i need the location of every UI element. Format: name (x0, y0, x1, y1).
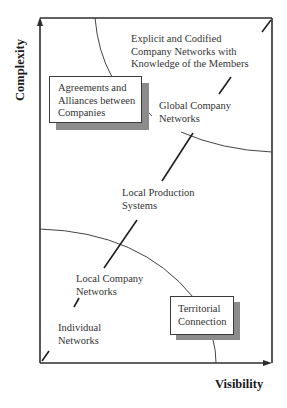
trend-segment-6 (262, 20, 271, 32)
trend-segment-3 (104, 220, 137, 268)
label-local-company-line-2: Networks (76, 286, 143, 299)
label-explicit-line-2: Company Networks with (131, 46, 249, 59)
trend-segment-2 (74, 298, 79, 307)
trend-segment-5 (219, 77, 231, 94)
agreements-box: Agreements and Alliances between Compani… (49, 76, 142, 123)
arc-upper-right (181, 132, 272, 152)
territorial-box: Territorial Connection (170, 296, 234, 335)
arc-upper-left (95, 18, 112, 77)
label-local-company-line-1: Local Company (76, 273, 143, 286)
agreements-line-1: Agreements and (58, 82, 141, 95)
label-global-line-2: Networks (159, 113, 231, 126)
trend-segment-4 (162, 133, 193, 181)
territorial-line-2: Connection (178, 316, 233, 329)
label-local-production: Local Production Systems (122, 187, 195, 212)
label-local-production-line-2: Systems (122, 200, 195, 213)
territorial-line-1: Territorial (178, 303, 233, 316)
y-axis-label: Complexity (13, 39, 28, 101)
label-individual-line-1: Individual (58, 322, 101, 335)
label-explicit: Explicit and Codified Company Networks w… (131, 33, 249, 71)
label-local-company: Local Company Networks (76, 273, 143, 298)
arc-lower-right (213, 340, 216, 363)
complexity-visibility-diagram: Complexity Visibility Agreements and All… (0, 0, 287, 408)
label-local-production-line-1: Local Production (122, 187, 195, 200)
trend-segment-1 (42, 351, 49, 361)
agreements-line-2: Alliances between (58, 95, 141, 108)
x-axis-label: Visibility (215, 377, 263, 392)
label-individual-line-2: Networks (58, 335, 101, 348)
label-explicit-line-3: Knowledge of the Members (131, 58, 249, 71)
label-individual: Individual Networks (58, 322, 101, 347)
agreements-line-3: Companies (58, 107, 141, 120)
label-global: Global Company Networks (159, 100, 231, 125)
x-axis-arrow-icon (263, 360, 272, 366)
label-explicit-line-1: Explicit and Codified (131, 33, 249, 46)
label-global-line-1: Global Company (159, 100, 231, 113)
